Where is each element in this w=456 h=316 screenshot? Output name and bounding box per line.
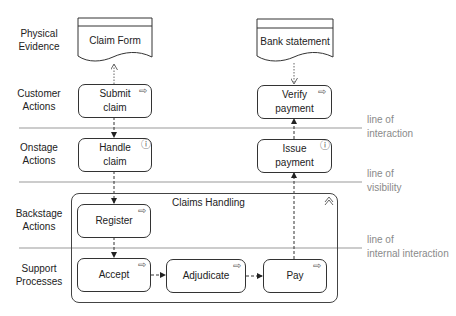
- lane-label-backstage-actions: Backstage Actions: [3, 207, 75, 233]
- line-label-text: line of: [367, 233, 449, 247]
- node-label: Pay: [286, 269, 303, 283]
- line-label-text: internal interaction: [367, 247, 449, 261]
- line-of-internal-interaction-label: line of internal interaction: [367, 233, 449, 261]
- process-arrow-icon: ⇨: [138, 260, 146, 270]
- process-arrow-icon: ⇨: [313, 261, 321, 271]
- line-label-text: line of: [367, 167, 401, 181]
- process-arrow-icon: ⇨: [318, 87, 326, 97]
- interaction-icon: ⓘ: [320, 141, 330, 151]
- node-label: Adjudicate: [183, 269, 230, 283]
- node-label: Verify payment: [271, 88, 319, 116]
- process-arrow-icon: ⇨: [138, 206, 146, 216]
- bank-statement-label: Bank statement: [257, 36, 333, 48]
- lane-label-support-processes: Support Processes: [3, 262, 75, 288]
- lane-label-onstage-actions: Onstage Actions: [3, 141, 75, 167]
- line-label-text: interaction: [367, 127, 413, 141]
- node-label: Issue payment: [271, 142, 319, 170]
- node-label: Submit claim: [95, 87, 135, 115]
- line-label-text: line of: [367, 113, 413, 127]
- process-arrow-icon: ⇨: [233, 261, 241, 271]
- claims-handling-title: Claims Handling: [172, 197, 245, 208]
- line-of-visibility-label: line of visibility: [367, 167, 401, 195]
- lane-label-physical-evidence: Physical Evidence: [3, 27, 75, 53]
- interaction-icon: ⓘ: [141, 140, 151, 150]
- claim-form-label: Claim Form: [78, 35, 152, 47]
- process-arrow-icon: ⇨: [139, 86, 147, 96]
- line-of-interaction-label: line of interaction: [367, 113, 413, 141]
- line-label-text: visibility: [367, 181, 401, 195]
- lane-label-customer-actions: Customer Actions: [3, 87, 75, 113]
- node-label: Register: [95, 214, 132, 228]
- node-label: Accept: [99, 268, 130, 282]
- node-label: Handle claim: [95, 141, 135, 169]
